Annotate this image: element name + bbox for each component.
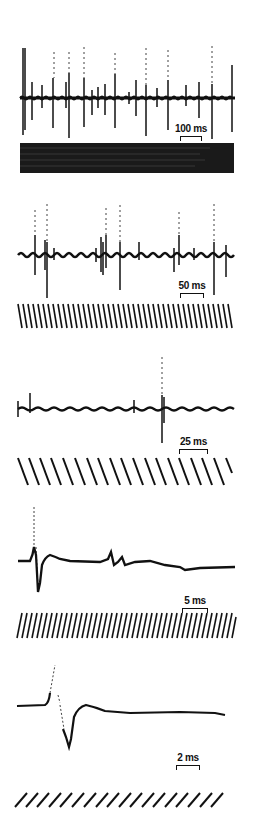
panel-a: 100 ms <box>0 40 254 190</box>
scale-label-e: 2 ms <box>177 752 199 763</box>
panel-d: 5 ms <box>0 495 254 645</box>
trace-a <box>0 40 254 190</box>
trace-e <box>0 655 254 825</box>
panel-c: 25 ms <box>0 345 254 490</box>
scale-label-c: 25 ms <box>180 436 207 447</box>
trace-c <box>0 345 254 490</box>
scale-label-a: 100 ms <box>175 123 207 134</box>
trace-d <box>0 495 254 645</box>
scale-label-b: 50 ms <box>179 280 206 291</box>
scale-label-d: 5 ms <box>184 595 206 606</box>
trace-b <box>0 200 254 340</box>
panel-e: 2 ms <box>0 655 254 825</box>
panel-b: 50 ms <box>0 200 254 340</box>
